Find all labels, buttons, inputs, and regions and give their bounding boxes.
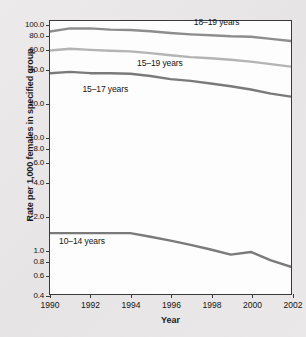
plot-panel: 100.080.060.040.020.010.08.06.04.02.01.0… [49,20,292,295]
series-label-15-19 years: 15–19 years [137,58,183,68]
y-tick-label: 0.8 [33,257,44,266]
y-tick-label: 0.4 [33,291,44,300]
x-tick-label: 1992 [81,300,100,310]
x-tick-label: 1994 [122,300,141,310]
x-tick-mark [212,294,213,298]
x-tick-mark [90,294,91,298]
series-label-10-14 years: 10–14 years [59,236,105,246]
series-label-18-19 years: 18–19 years [194,17,240,27]
y-tick-label: 0.6 [33,271,44,280]
x-tick-mark [293,294,294,298]
x-tick-label: 1996 [162,300,181,310]
y-tick-label: 6.0 [33,158,44,167]
chart-figure: Rate per 1,000 females in specified grou… [0,0,306,337]
x-tick-mark [131,294,132,298]
x-tick-mark [171,294,172,298]
y-tick-label: 2.0 [33,212,44,221]
x-axis-title: Year [49,315,292,325]
y-tick-label: 8.0 [33,144,44,153]
series-label-15-17 years: 15–17 years [82,84,128,94]
y-tick-label: 1.0 [33,246,44,255]
x-tick-label: 2002 [284,300,303,310]
y-axis-title: Rate per 1,000 females in specified grou… [25,10,35,260]
x-tick-label: 2000 [243,300,262,310]
x-tick-label: 1998 [203,300,222,310]
x-tick-mark [50,294,51,298]
x-tick-mark [252,294,253,298]
y-tick-label: 4.0 [33,178,44,187]
series-line-18-19 years [50,28,291,41]
x-tick-label: 1990 [41,300,60,310]
